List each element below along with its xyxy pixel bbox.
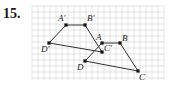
point-D (83, 59, 86, 62)
label-D_prime: D' (40, 44, 50, 54)
label-A_prime: A' (57, 13, 66, 23)
quadrilateral-diagram: A'B'D'AC'BDC (0, 0, 169, 86)
point-B_prime (83, 23, 86, 26)
segment-C_prime-D_prime (49, 43, 102, 52)
label-C_prime: C' (104, 43, 113, 53)
label-B_prime: B' (87, 13, 95, 23)
label-C: C (139, 72, 146, 82)
label-D: D (76, 62, 84, 72)
label-A: A (95, 32, 102, 42)
point-A_prime (64, 23, 67, 26)
segment-B-C (120, 43, 138, 71)
segment-D_prime-A_prime (49, 25, 66, 43)
label-B: B (122, 33, 128, 43)
